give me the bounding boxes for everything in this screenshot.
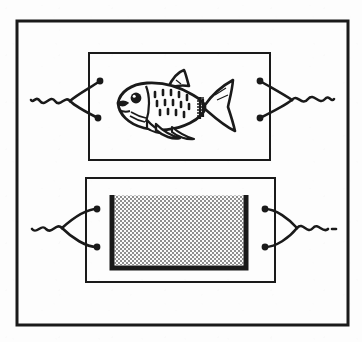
lower-left-terminal-bottom <box>94 244 101 251</box>
lower-left-terminal-top <box>94 206 101 213</box>
lower-right-terminal-bottom <box>262 244 269 251</box>
fish-caudal-peduncle-marks <box>197 98 204 116</box>
tank-fill <box>115 196 244 266</box>
lower-right-terminal-top <box>262 206 269 213</box>
illustration-canvas <box>0 0 362 342</box>
fish-eye <box>131 93 142 104</box>
upper-right-terminal-bottom <box>257 115 264 122</box>
upper-left-terminal-bottom <box>95 115 102 122</box>
figure-root: Fish and tank electrode schematic goldfi… <box>0 0 362 342</box>
fish-eye-highlight <box>133 95 136 98</box>
upper-right-terminal-top <box>257 78 264 85</box>
upper-left-terminal-top <box>97 78 104 85</box>
page-background <box>0 0 362 342</box>
fish-mouth <box>118 102 128 106</box>
tank-illustration <box>112 195 246 268</box>
